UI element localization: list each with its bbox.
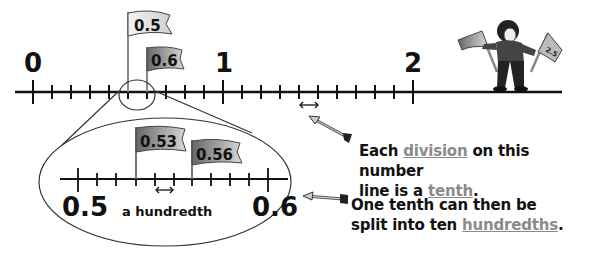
term-division: division	[403, 142, 467, 160]
caption-text: .	[558, 216, 564, 234]
label-2: 2	[404, 48, 422, 78]
pointer-arrow-icon	[309, 116, 352, 143]
caption-text: split into ten	[351, 216, 462, 234]
flag-label: 0.56	[196, 146, 233, 164]
main-number-line: 0 1 2	[15, 48, 562, 104]
double-arrow-icon	[156, 187, 173, 193]
label-0-5: 0.5	[62, 192, 108, 222]
caption-tenth: Each division on this number line is a t…	[359, 141, 590, 201]
label-1: 1	[215, 48, 233, 78]
term-hundredths: hundredths	[462, 216, 558, 234]
label-0-6: 0.6	[252, 192, 298, 222]
character-illustration: 2.5	[458, 20, 562, 92]
caption-line: One tenth can then be	[351, 195, 563, 215]
flag-label: 0.6	[151, 52, 178, 70]
flag-0-53: 0.53	[136, 126, 186, 179]
caption-hundredth: One tenth can then be split into ten hun…	[351, 195, 563, 235]
caption-text: Each	[359, 142, 403, 160]
caption-line: split into ten hundredths.	[351, 215, 563, 235]
hundredths-number-line: 0.5 0.6 a hundredth	[60, 168, 298, 222]
label-0: 0	[24, 48, 42, 78]
flag-label: 0.53	[140, 133, 177, 151]
interval-label: a hundredth	[122, 204, 212, 219]
caption-line: Each division on this number	[359, 141, 590, 181]
pointer-arrow-icon	[303, 192, 348, 204]
flag-0-56: 0.56	[192, 139, 242, 179]
flag-label: 0.5	[134, 17, 161, 35]
double-arrow-icon	[300, 102, 318, 108]
